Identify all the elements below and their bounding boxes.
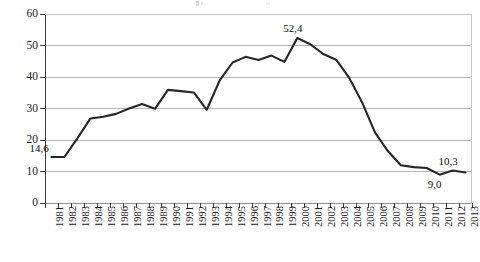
x-axis-label-1990: 1990 <box>172 206 183 227</box>
x-axis-label-2008: 2008 <box>405 206 416 227</box>
x-axis-label-1981: 1981 <box>55 206 66 227</box>
data-label-2012: 10,3 <box>439 156 458 167</box>
y-axis-label-60: 60 <box>4 8 38 20</box>
x-axis-label-2000: 2000 <box>301 206 312 227</box>
x-axis-label-2006: 2006 <box>379 206 390 227</box>
x-axis-label-1999: 1999 <box>288 206 299 227</box>
x-axis-label-2012: 2012 <box>457 206 468 227</box>
x-axis-label-2007: 2007 <box>392 206 403 227</box>
data-label-2011: 9,0 <box>428 179 442 190</box>
x-axis-label-2001: 2001 <box>314 206 325 227</box>
x-axis-label-2002: 2002 <box>327 206 338 227</box>
x-axis-label-1997: 1997 <box>263 206 274 227</box>
x-axis-label-1985: 1985 <box>107 206 118 227</box>
x-axis-label-2005: 2005 <box>366 206 377 227</box>
y-axis-label-30: 30 <box>4 103 38 115</box>
x-axis-label-2010: 2010 <box>431 206 442 227</box>
x-axis-label-1992: 1992 <box>198 206 209 227</box>
x-axis-label-1995: 1995 <box>237 206 248 227</box>
x-axis-label-2011: 2011 <box>444 206 455 227</box>
x-axis-label-1984: 1984 <box>94 206 105 227</box>
x-axis-label-1987: 1987 <box>133 206 144 227</box>
y-axis-label-10: 10 <box>4 166 38 178</box>
x-axis-label-1993: 1993 <box>211 206 222 227</box>
x-axis-label-1982: 1982 <box>68 206 79 227</box>
plot-area: 14,652,49,010,3 <box>45 14 472 203</box>
x-axis-label-2003: 2003 <box>340 206 351 227</box>
x-axis-label-2013: 2013 <box>470 206 480 227</box>
data-label-1981: 14,6 <box>29 143 48 154</box>
x-axis-label-2004: 2004 <box>353 206 364 227</box>
x-axis-label-2009: 2009 <box>418 206 429 227</box>
title-artifact <box>0 0 480 10</box>
x-axis-label-1983: 1983 <box>81 206 92 227</box>
data-label-2000: 52,4 <box>283 23 302 34</box>
x-axis-label-1996: 1996 <box>250 206 261 227</box>
x-axis-label-1994: 1994 <box>224 206 235 227</box>
y-axis-labels: 0102030405060 <box>0 14 38 203</box>
y-axis-label-50: 50 <box>4 40 38 52</box>
y-axis-label-40: 40 <box>4 71 38 83</box>
y-axis-label-0: 0 <box>4 197 38 209</box>
x-axis-label-1989: 1989 <box>159 206 170 227</box>
data-series-line <box>45 14 472 203</box>
x-axis-labels: 1981198219831984198519861987198819891990… <box>45 206 472 256</box>
x-axis-label-1991: 1991 <box>185 206 196 227</box>
x-axis-label-1998: 1998 <box>275 206 286 227</box>
x-axis-label-1986: 1986 <box>120 206 131 227</box>
line-chart: 0102030405060 14,652,49,010,3 1981198219… <box>0 0 480 262</box>
x-axis-label-1988: 1988 <box>146 206 157 227</box>
